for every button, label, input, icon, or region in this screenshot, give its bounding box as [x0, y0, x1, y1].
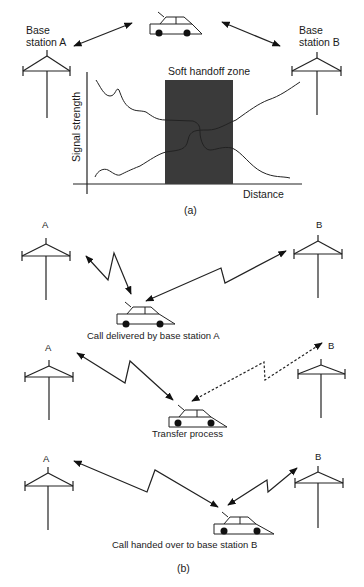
station-a-label: A [43, 453, 50, 464]
scenario-1: A B Call del [22, 219, 342, 341]
car-icon [169, 405, 227, 427]
part-a: Base station A Base station B [23, 12, 341, 216]
link-arrow-a [77, 353, 173, 400]
base-station-b-antenna-icon [294, 235, 342, 298]
station-a-label: A [42, 219, 49, 230]
car-icon [117, 302, 175, 328]
scenario-3: A B Call han [25, 451, 343, 550]
x-axis-label: Distance [243, 188, 284, 200]
y-axis-label: Signal strength [70, 92, 82, 162]
link-arrow-a [74, 461, 218, 507]
station-a-label: Base [26, 24, 50, 36]
base-station-a-antenna-icon [25, 360, 73, 420]
base-station-a-antenna-icon [23, 50, 70, 118]
station-b-label: B [328, 340, 334, 351]
scenario-caption: Call handed over to base station B [112, 539, 257, 550]
link-arrow-a [74, 23, 132, 46]
base-station-a-antenna-icon [25, 467, 73, 530]
station-b-label: B [315, 451, 321, 462]
base-station-b-antenna-icon [295, 466, 343, 528]
scenario-2: A B Transfer [25, 340, 345, 439]
soft-handoff-figure: Base station A Base station B [0, 0, 364, 587]
station-b-label: Base [299, 24, 323, 36]
link-arrow-a [86, 253, 131, 294]
station-a-label-2: station A [26, 36, 66, 48]
base-station-b-antenna-icon [298, 359, 345, 418]
link-arrow-b [228, 468, 297, 505]
link-arrow-b [146, 251, 286, 301]
link-arrow-b [222, 22, 280, 46]
scenario-caption: Transfer process [152, 428, 223, 439]
caption-b: (b) [177, 562, 190, 574]
car-icon [150, 12, 202, 37]
soft-handoff-zone [165, 80, 233, 184]
station-b-label: B [316, 219, 322, 230]
car-icon [214, 512, 274, 535]
scenario-caption: Call delivered by base station A [87, 330, 220, 341]
caption-a: (a) [184, 204, 197, 216]
base-station-a-antenna-icon [22, 238, 70, 300]
base-station-b-antenna-icon [292, 52, 341, 115]
station-a-label: A [45, 342, 52, 353]
zone-label: Soft handoff zone [168, 65, 250, 77]
station-b-label-2: station B [299, 36, 340, 48]
